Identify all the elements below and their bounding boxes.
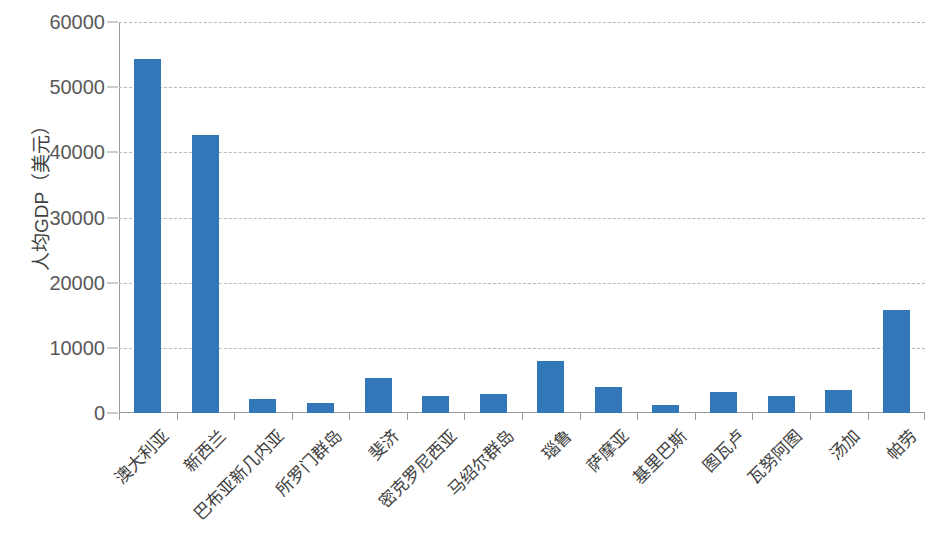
bar-category (695, 22, 753, 413)
bar-category (810, 22, 868, 413)
bar-category (522, 22, 580, 413)
bar-category (234, 22, 292, 413)
x-axis-tick-label: 瑙鲁 (539, 427, 576, 464)
bar (249, 399, 276, 413)
y-axis-tick-label: 0 (0, 402, 105, 425)
bar (365, 378, 392, 413)
bar (192, 135, 219, 413)
bar-category (177, 22, 235, 413)
x-axis-tick-label: 澳大利亚 (112, 427, 173, 488)
x-axis-tick-label: 汤加 (827, 427, 864, 464)
y-axis-tick-mark (107, 413, 118, 414)
bar-chart: 人均GDP（美元） 600005000040000300002000010000… (0, 0, 934, 537)
x-axis-tick-label: 基里巴斯 (630, 427, 691, 488)
y-axis-tick-mark (107, 152, 118, 153)
y-axis-tick-mark (107, 347, 118, 348)
y-axis-tick-mark (107, 282, 118, 283)
bar (422, 396, 449, 413)
y-axis-tick-label: 10000 (0, 336, 105, 359)
x-axis-tick-label: 帕劳 (884, 427, 921, 464)
bar-category (349, 22, 407, 413)
y-axis-tick-mark (107, 217, 118, 218)
x-axis-tick-label: 新西兰 (181, 427, 230, 476)
y-axis-tick-label: 20000 (0, 271, 105, 294)
x-axis-tick-label: 斐济 (366, 427, 403, 464)
x-axis-tick-label: 萨摩亚 (584, 427, 633, 476)
bar-category (580, 22, 638, 413)
plot-area (119, 22, 925, 413)
x-axis-tick-label: 图瓦卢 (699, 427, 748, 476)
bar-category (464, 22, 522, 413)
bar (595, 387, 622, 413)
x-axis-tick-label: 瓦努阿图 (745, 427, 806, 488)
bar-category (119, 22, 177, 413)
bar (652, 405, 679, 413)
bar-series (119, 22, 925, 413)
x-axis-tick-labels: 澳大利亚新西兰巴布亚新几内亚所罗门群岛斐济密克罗尼西亚马绍尔群岛瑙鲁萨摩亚基里巴… (119, 413, 925, 537)
bar (537, 361, 564, 413)
bar-category (868, 22, 926, 413)
bar (480, 394, 507, 413)
bar-category (407, 22, 465, 413)
bar (710, 392, 737, 413)
y-axis-tick-mark (107, 22, 118, 23)
bar-category (752, 22, 810, 413)
y-axis-tick-label: 30000 (0, 206, 105, 229)
bar (883, 310, 910, 413)
bar (825, 390, 852, 413)
bar-category (292, 22, 350, 413)
y-axis-tick-label: 60000 (0, 11, 105, 34)
y-axis-tick-mark (107, 87, 118, 88)
bar-category (637, 22, 695, 413)
bar (307, 403, 334, 413)
y-axis-tick-label: 40000 (0, 141, 105, 164)
bar (768, 396, 795, 413)
y-axis-tick-label: 50000 (0, 76, 105, 99)
bar (134, 59, 161, 413)
